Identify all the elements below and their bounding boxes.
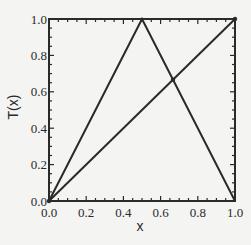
series-line-1 xyxy=(49,19,235,201)
y-tick-label: 0.4 xyxy=(31,121,48,136)
y-tick-labels: 0.00.20.40.60.81.0 xyxy=(31,12,48,209)
y-tick-label: 1.0 xyxy=(31,12,47,27)
x-tick-label: 0.2 xyxy=(78,205,94,220)
y-tick-label: 0.8 xyxy=(31,48,47,63)
y-tick-label: 0.0 xyxy=(31,194,47,209)
x-tick-label: 0.8 xyxy=(190,205,206,220)
series-group xyxy=(49,19,235,201)
chart: 0.00.20.40.60.81.0 0.00.20.40.60.81.0 x … xyxy=(0,0,251,245)
x-tick-label: 1.0 xyxy=(227,205,243,220)
x-tick-label: 0.4 xyxy=(115,205,132,220)
fixed-point-marker xyxy=(171,77,175,81)
x-tick-label: 0.6 xyxy=(152,205,169,220)
y-tick-label: 0.2 xyxy=(31,157,47,172)
y-tick-label: 0.6 xyxy=(31,84,48,99)
x-axis-label: x xyxy=(137,218,144,234)
y-axis-label: T(x) xyxy=(5,95,21,120)
